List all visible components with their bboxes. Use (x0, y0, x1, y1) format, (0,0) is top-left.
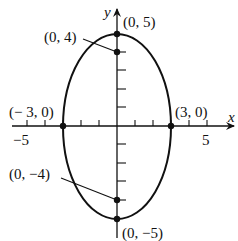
leader-line-focus-bottom (61, 178, 117, 200)
point-focus-bottom (114, 197, 120, 203)
label-top-vertex: (0, 5) (123, 14, 156, 31)
ellipse-diagram: y x −5 5 (0, 5) (0, −5) (− 3, 0) (3, 0) … (0, 0, 238, 241)
point-left-covertex (60, 123, 66, 129)
label-right-covertex: (3, 0) (175, 104, 208, 121)
y-axis-label: y (102, 4, 111, 20)
point-top-vertex (114, 31, 120, 37)
point-bottom-vertex (114, 216, 120, 222)
label-bottom-vertex: (0, −5) (122, 225, 163, 241)
x-tick-label-5: 5 (202, 132, 210, 148)
x-axis-label: x (227, 109, 235, 125)
label-focus-top: (0, 4) (44, 29, 77, 46)
x-tick-label-neg5: −5 (13, 132, 29, 148)
point-right-covertex (168, 123, 174, 129)
leader-line-focus-top (83, 39, 117, 52)
label-left-covertex: (− 3, 0) (9, 104, 54, 121)
point-focus-top (114, 49, 120, 55)
label-focus-bottom: (0, −4) (9, 166, 50, 183)
